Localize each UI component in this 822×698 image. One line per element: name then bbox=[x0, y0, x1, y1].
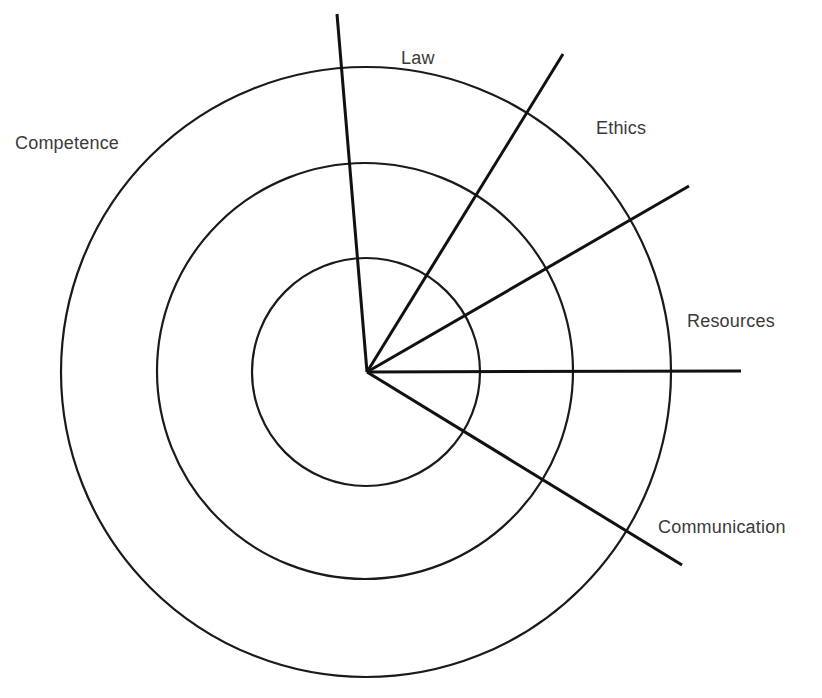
resources-spoke bbox=[367, 371, 741, 372]
resources-upper-spoke bbox=[367, 186, 689, 372]
label-ethics: Ethics bbox=[596, 119, 646, 137]
communication-spoke bbox=[367, 372, 682, 565]
ethics-spoke bbox=[367, 54, 563, 372]
label-communication: Communication bbox=[658, 518, 786, 536]
label-law: Law bbox=[401, 49, 435, 67]
concentric-diagram bbox=[0, 0, 822, 698]
label-resources: Resources bbox=[687, 312, 775, 330]
label-competence: Competence bbox=[15, 134, 119, 152]
